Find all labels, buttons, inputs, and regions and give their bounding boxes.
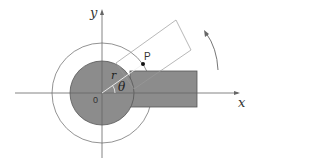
y-axis-label: y	[90, 6, 97, 19]
y-axis-arrowhead	[100, 9, 104, 15]
point-p-marker	[141, 62, 145, 66]
x-axis-label: x	[238, 96, 245, 109]
origin-label: 0	[93, 96, 98, 105]
point-p-label: P	[144, 52, 151, 62]
fixed-bar	[130, 71, 197, 107]
radius-label: r	[111, 70, 116, 81]
rotation-arrow-icon	[206, 33, 218, 70]
angle-label: θ	[118, 81, 125, 93]
